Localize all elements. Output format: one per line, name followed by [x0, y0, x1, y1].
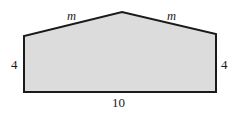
label-base-10: 10: [112, 96, 125, 109]
pentagon-outline: [24, 12, 216, 92]
geometry-figure: m m 4 4 10: [0, 0, 241, 115]
label-side-left-4: 4: [11, 58, 18, 71]
label-slant-left-m: m: [67, 10, 76, 23]
label-side-right-4: 4: [221, 58, 228, 71]
label-slant-right-m: m: [167, 10, 176, 23]
